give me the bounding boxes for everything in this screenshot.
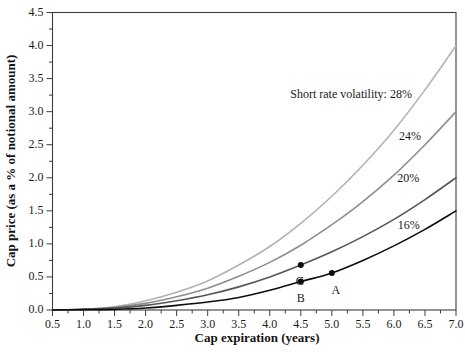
x-tick-label: 1.5 bbox=[107, 317, 122, 331]
y-tick-label: 1.5 bbox=[29, 203, 44, 217]
y-tick-label: 0.0 bbox=[29, 302, 44, 316]
curve-24% bbox=[53, 112, 457, 310]
x-tick-label: 0.5 bbox=[45, 317, 60, 331]
cap-price-chart: 0.51.01.52.02.53.03.54.04.55.05.56.06.57… bbox=[0, 0, 465, 352]
curve-label-20%: 20% bbox=[397, 171, 419, 185]
y-tick-label: 0.5 bbox=[29, 269, 44, 283]
x-tick-label: 5.5 bbox=[355, 317, 370, 331]
curve-label-24%: 24% bbox=[399, 129, 421, 143]
cap-price-figure: 0.51.01.52.02.53.03.54.04.55.05.56.06.57… bbox=[0, 0, 465, 352]
y-axis-title: Cap price (as a % of notional amount) bbox=[3, 55, 19, 268]
curve-label-16%: 16% bbox=[398, 218, 420, 232]
curve-20% bbox=[53, 178, 457, 310]
x-tick-label: 7.0 bbox=[449, 317, 464, 331]
y-tick-label: 2.0 bbox=[29, 170, 44, 184]
y-tick-label: 4.5 bbox=[29, 5, 44, 19]
y-tick-label: 3.0 bbox=[29, 104, 44, 118]
y-tick-label: 3.5 bbox=[29, 71, 44, 85]
x-tick-label: 6.5 bbox=[417, 317, 432, 331]
volatility-annotation: Short rate volatility: 28% bbox=[290, 87, 412, 101]
y-tick-label: 1.0 bbox=[29, 236, 44, 250]
point-label-B: B bbox=[297, 291, 305, 305]
plot-border bbox=[53, 13, 457, 311]
point-label-C: C bbox=[296, 274, 304, 288]
point-label-A: A bbox=[332, 283, 341, 297]
x-tick-label: 6.0 bbox=[386, 317, 401, 331]
y-tick-label: 2.5 bbox=[29, 137, 44, 151]
curve-16% bbox=[53, 211, 457, 310]
x-tick-label: 4.5 bbox=[293, 317, 308, 331]
point-A bbox=[329, 270, 335, 276]
x-tick-label: 1.0 bbox=[76, 317, 91, 331]
x-tick-label: 3.0 bbox=[200, 317, 215, 331]
point-C bbox=[298, 262, 304, 268]
x-tick-label: 5.0 bbox=[324, 317, 339, 331]
x-tick-label: 2.0 bbox=[138, 317, 153, 331]
x-tick-label: 4.0 bbox=[262, 317, 277, 331]
x-tick-label: 3.5 bbox=[231, 317, 246, 331]
x-axis-title: Cap expiration (years) bbox=[195, 330, 320, 346]
y-tick-label: 4.0 bbox=[29, 38, 44, 52]
x-tick-label: 2.5 bbox=[169, 317, 184, 331]
